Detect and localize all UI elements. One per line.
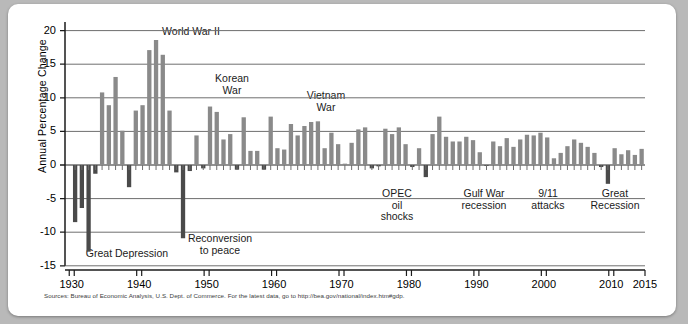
bar-1977	[390, 134, 394, 165]
bar-1987	[457, 141, 461, 165]
bar-1941	[147, 50, 151, 165]
bar-1942	[154, 40, 158, 165]
screenshot-frame: Annual Percentage Change 20151050-5-10-1…	[0, 0, 688, 324]
bar-1994	[505, 138, 509, 165]
bar-1939	[134, 111, 138, 165]
bar-1972	[356, 129, 360, 165]
bar-1969	[336, 144, 340, 165]
bar-2014	[639, 149, 643, 165]
gdp-bar-chart: Annual Percentage Change 20151050-5-10-1…	[8, 4, 676, 316]
bar-1959	[269, 117, 273, 165]
bar-2006	[586, 147, 590, 165]
bar-1988	[464, 137, 468, 165]
bar-1971	[349, 143, 353, 165]
bar-2012	[626, 150, 630, 165]
bar-1932	[86, 165, 90, 252]
bar-1966	[316, 121, 320, 165]
bar-1989	[471, 140, 475, 165]
bar-2005	[579, 143, 583, 165]
chart-card: Annual Percentage Change 20151050-5-10-1…	[8, 4, 676, 316]
bar-1973	[363, 127, 367, 165]
bar-1968	[329, 133, 333, 165]
bar-1944	[167, 111, 171, 165]
bar-1970	[343, 164, 347, 165]
bar-1965	[309, 122, 313, 165]
bar-1979	[403, 144, 407, 165]
bar-1940	[140, 105, 144, 165]
bar-1953	[228, 134, 232, 165]
bar-1967	[323, 148, 327, 165]
bar-1990	[478, 152, 482, 165]
bar-1955	[242, 117, 246, 165]
source-note: Sources: Bureau of Economic Analysis, U.…	[44, 292, 405, 299]
bar-1978	[397, 127, 401, 165]
bar-1948	[194, 135, 198, 165]
bar-1957	[255, 151, 259, 165]
bar-1962	[289, 124, 293, 165]
bar-1931	[80, 165, 84, 208]
bar-1951	[215, 112, 219, 165]
bar-1950	[208, 107, 212, 165]
bar-2001	[552, 158, 556, 165]
bar-1976	[383, 129, 387, 165]
bar-2004	[572, 139, 576, 165]
bar-1961	[282, 150, 286, 165]
bar-1952	[221, 139, 225, 165]
bar-1985	[444, 137, 448, 165]
bar-1992	[491, 141, 495, 165]
bar-1986	[451, 141, 455, 165]
bar-1964	[302, 126, 306, 165]
bar-1930	[73, 165, 77, 222]
bar-2000	[545, 137, 549, 165]
bar-1935	[107, 105, 111, 165]
bar-1995	[511, 147, 515, 165]
bar-2003	[565, 146, 569, 165]
bar-1936	[113, 77, 117, 165]
bar-1963	[296, 135, 300, 165]
bar-2002	[559, 153, 563, 165]
bar-1983	[430, 134, 434, 165]
bar-1981	[417, 148, 421, 165]
bar-1934	[100, 92, 104, 165]
bar-1997	[525, 135, 529, 165]
bar-1984	[437, 117, 441, 165]
plot-area	[8, 4, 676, 316]
bar-1937	[120, 131, 124, 165]
bar-1960	[275, 148, 279, 165]
bar-1956	[248, 151, 252, 165]
bar-2007	[592, 153, 596, 165]
bar-1998	[532, 135, 536, 165]
bar-1943	[161, 55, 165, 165]
bar-2010	[613, 148, 617, 165]
bar-1993	[498, 146, 502, 165]
bar-2013	[633, 155, 637, 165]
bar-1996	[518, 139, 522, 165]
bar-1999	[538, 133, 542, 165]
bar-2011	[619, 154, 623, 165]
bar-1946	[181, 165, 185, 238]
